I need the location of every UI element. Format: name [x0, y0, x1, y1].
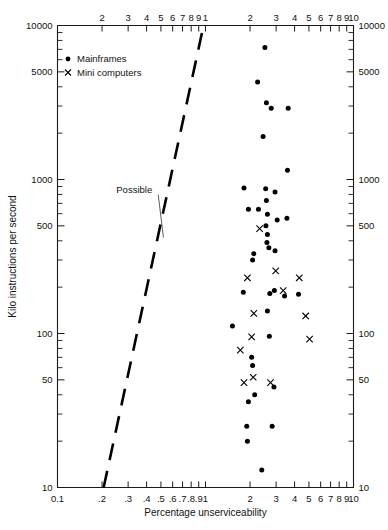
x-axis-tick-label: 2	[247, 493, 252, 504]
mainframes-point	[275, 218, 280, 223]
mainframes-point	[266, 245, 271, 250]
y-axis-tick-label-left: 10000	[26, 20, 52, 31]
scatter-plot-figure: 0.1.2.3.4.5.6.7.8.9123456789102345678912…	[0, 0, 388, 530]
mini-computers-point	[250, 374, 256, 380]
x-axis-tick-label-top: 4	[144, 12, 149, 23]
x-axis-tick-label: 5	[306, 493, 311, 504]
mainframes-point	[265, 232, 270, 237]
x-axis-tick-label-top: 3	[125, 12, 130, 23]
x-axis-tick-label-top: 8	[189, 12, 194, 23]
mainframes-point	[296, 292, 301, 297]
data-points	[230, 45, 313, 472]
x-axis-tick-label: 4	[292, 493, 297, 504]
mainframes-point	[264, 100, 269, 105]
mainframes-point	[246, 399, 251, 404]
mainframes-point	[263, 223, 268, 228]
mainframes-point	[264, 198, 269, 203]
y-axis-tick-label-left: 50	[42, 374, 53, 385]
mainframes-point	[271, 384, 276, 389]
legend-item-label: Mini computers	[77, 67, 142, 78]
mini-computers-point	[248, 334, 254, 340]
x-axis-tick-label-top: 10	[348, 12, 359, 23]
x-axis-tick-label: .3	[124, 493, 132, 504]
mini-computers-point	[280, 287, 286, 293]
mainframes-point	[269, 106, 274, 111]
x-axis-tick-label-top: 2	[99, 12, 104, 23]
x-axis-tick-label-top: 2	[247, 12, 252, 23]
x-axis-tick-label: 6	[318, 493, 323, 504]
mainframes-point	[265, 308, 270, 313]
y-axis-tick-label-right: 50	[359, 374, 370, 385]
legend-marker-cross	[65, 70, 71, 76]
mainframes-point	[246, 207, 251, 212]
mainframes-point	[230, 323, 235, 328]
x-axis-tick-label-top: 7	[328, 12, 333, 23]
axis-ticks	[58, 26, 354, 488]
x-axis-tick-label-top: 7	[180, 12, 185, 23]
chart-annotations: Possible	[116, 184, 163, 238]
x-axis-tick-label-top: 5	[306, 12, 311, 23]
x-axis-tick-label-top: 6	[170, 12, 175, 23]
possible-reference-line	[104, 26, 204, 488]
y-axis-tick-label-right: 1000	[359, 174, 380, 185]
x-axis-tick-label: 10	[348, 493, 359, 504]
y-axis-tick-label-left: 10	[42, 482, 53, 493]
mainframes-point	[262, 45, 267, 50]
mainframes-point	[241, 186, 246, 191]
mainframes-point	[256, 207, 261, 212]
x-axis-tick-label: .4	[143, 493, 151, 504]
plot-frame	[58, 26, 354, 488]
mainframes-point	[245, 439, 250, 444]
mainframes-point	[264, 240, 269, 245]
x-axis-tick-label: .5	[157, 493, 165, 504]
mainframes-point	[252, 392, 257, 397]
mainframes-point	[267, 291, 272, 296]
possible-line-path	[104, 26, 204, 488]
y-axis-tick-label-left: 1000	[31, 174, 52, 185]
y-axis-title: Kilo instructions per second	[7, 195, 18, 317]
x-axis-tick-label: .9	[195, 493, 203, 504]
x-axis-tick-label: .2	[98, 493, 106, 504]
mainframes-point	[255, 79, 260, 84]
mini-computers-point	[244, 275, 250, 281]
x-axis-tick-label: 8	[337, 493, 342, 504]
possible-annotation-label: Possible	[116, 184, 152, 195]
mainframes-point	[251, 251, 256, 256]
x-axis-tick-label-top: 9	[196, 12, 201, 23]
x-axis-tick-label-top: 8	[337, 12, 342, 23]
mainframes-point	[282, 294, 287, 299]
mini-computers-point	[251, 310, 257, 316]
mainframes-point	[250, 258, 255, 263]
axis-titles: Percentage unserviceabilityKilo instruct…	[7, 195, 267, 517]
mainframes-point	[263, 186, 268, 191]
mini-computers-point	[256, 225, 262, 231]
mainframes-point	[270, 424, 275, 429]
plot-border	[58, 26, 354, 488]
y-axis-tick-label-left: 5000	[31, 66, 52, 77]
mini-computers-point	[267, 379, 273, 385]
mini-computers-point	[237, 347, 243, 353]
mini-computers-point	[306, 336, 312, 342]
mainframes-point	[261, 134, 266, 139]
y-axis-tick-label-right: 5000	[359, 66, 380, 77]
mini-computers-point	[241, 379, 247, 385]
mainframes-point	[273, 189, 278, 194]
legend-marker-dot	[66, 57, 71, 62]
mainframes-point	[285, 168, 290, 173]
mainframes-point	[249, 355, 254, 360]
x-axis-tick-label-top: 4	[292, 12, 297, 23]
axis-tick-labels: 0.1.2.3.4.5.6.7.8.9123456789102345678912…	[26, 12, 385, 504]
y-axis-tick-label-right: 10000	[359, 20, 385, 31]
y-axis-tick-label-right: 10	[359, 482, 370, 493]
mainframes-point	[286, 106, 291, 111]
chart-legend: MainframesMini computers	[65, 53, 142, 78]
x-axis-tick-label-top: 3	[273, 12, 278, 23]
x-axis-tick-label: 1	[203, 493, 208, 504]
x-axis-title: Percentage unserviceability	[144, 507, 266, 518]
mainframes-point	[273, 248, 278, 253]
y-axis-tick-label-right: 500	[359, 220, 375, 231]
mainframes-point	[265, 212, 270, 217]
x-axis-tick-label-top: 1	[203, 12, 208, 23]
mainframes-point	[244, 424, 249, 429]
x-axis-tick-label: .7	[179, 493, 187, 504]
